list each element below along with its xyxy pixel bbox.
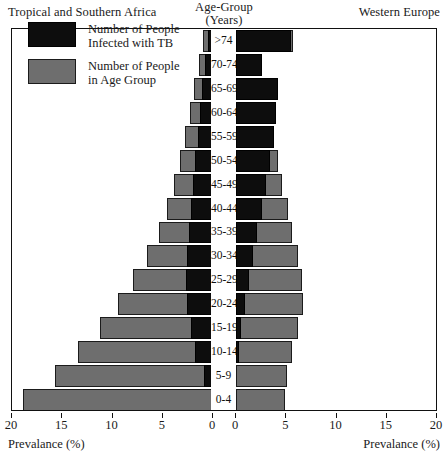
x-axis-label-left: Prevalance (%) xyxy=(8,437,85,452)
bar-age-group-right xyxy=(236,389,285,411)
bar-tb-infected-right xyxy=(236,126,274,148)
legend-item-age-group: Number of People in Age Group xyxy=(28,59,180,87)
x-axis-label-right: Prevalance (%) xyxy=(363,437,440,452)
bar-tb-infected-right xyxy=(236,54,262,76)
bar-tb-infected-left xyxy=(189,222,213,244)
x-axis-right: 05101520 xyxy=(0,413,448,431)
age-group-label: 45-49 xyxy=(211,179,236,191)
age-group-label: 55-59 xyxy=(211,131,236,143)
legend-label-age-group: Number of People in Age Group xyxy=(88,59,180,87)
bar-tb-infected-right xyxy=(236,269,249,291)
bar-tb-infected-left xyxy=(187,293,213,315)
axis-tick-label: 0 xyxy=(232,418,238,433)
age-group-label: 40-44 xyxy=(211,203,236,215)
bar-tb-infected-right xyxy=(236,150,270,172)
legend-swatch-age-group xyxy=(28,59,76,84)
bar-age-group-right xyxy=(236,293,303,315)
age-group-label: 25-29 xyxy=(211,274,236,286)
bar-tb-infected-right xyxy=(236,341,239,363)
bar-tb-infected-right xyxy=(236,78,278,100)
age-group-label: >74 xyxy=(211,35,236,47)
age-group-label: 15-19 xyxy=(211,322,236,334)
legend-label-age-group-line1: Number of People xyxy=(88,59,180,73)
age-group-label: 20-24 xyxy=(211,298,236,310)
bar-age-group-left xyxy=(78,341,213,363)
bar-tb-infected-right xyxy=(236,222,257,244)
legend-swatch-tb-infected xyxy=(28,22,76,47)
age-group-label: 30-34 xyxy=(211,250,236,262)
bar-tb-infected-right xyxy=(236,293,245,315)
bar-tb-infected-left xyxy=(191,317,213,339)
legend-item-tb: Number of People Infected with TB xyxy=(28,22,180,50)
age-group-label: 0-4 xyxy=(211,394,236,406)
bar-age-group-left xyxy=(23,389,213,411)
bar-tb-infected-right xyxy=(236,317,241,339)
legend-label-tb-line1: Number of People xyxy=(88,22,180,36)
axis-tick-label: 10 xyxy=(329,418,342,433)
age-group-label: 65-69 xyxy=(211,83,236,95)
age-group-label: 10-14 xyxy=(211,346,236,358)
bar-tb-infected-left xyxy=(193,174,213,196)
legend-label-tb-line2: Infected with TB xyxy=(88,36,180,50)
age-group-label: 35-39 xyxy=(211,226,236,238)
bar-age-group-left xyxy=(55,365,213,387)
bar-tb-infected-left xyxy=(186,269,213,291)
bar-age-group-right xyxy=(236,341,292,363)
bar-tb-infected-right xyxy=(236,245,253,267)
legend-label-age-group-line2: in Age Group xyxy=(88,73,180,87)
age-group-label-strip: 0-45-910-1415-1920-2425-2930-3435-3940-4… xyxy=(211,29,236,410)
bar-tb-infected-left xyxy=(191,198,213,220)
bar-tb-infected-right xyxy=(236,30,291,52)
chart-figure: Tropical and Southern Africa Western Eur… xyxy=(0,0,448,461)
age-group-label: 70-74 xyxy=(211,59,236,71)
axis-tick-label: 5 xyxy=(282,418,288,433)
axis-tick-label: 15 xyxy=(380,418,393,433)
bar-age-group-right xyxy=(236,317,298,339)
age-group-label: 5-9 xyxy=(211,370,236,382)
chart-legend: Number of People Infected with TB Number… xyxy=(28,22,180,96)
bar-tb-infected-right xyxy=(236,198,262,220)
age-group-label: 50-54 xyxy=(211,155,236,167)
axis-tick-label: 20 xyxy=(430,418,443,433)
bar-age-group-right xyxy=(236,365,287,387)
bar-tb-infected-right xyxy=(236,102,276,124)
bar-tb-infected-left xyxy=(187,245,213,267)
bar-tb-infected-right xyxy=(236,174,266,196)
legend-label-tb: Number of People Infected with TB xyxy=(88,22,180,50)
age-group-label: 60-64 xyxy=(211,107,236,119)
